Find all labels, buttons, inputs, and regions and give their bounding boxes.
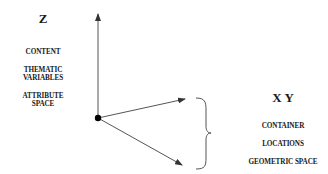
curly-brace-icon [196, 98, 211, 169]
origin-point [95, 115, 101, 121]
z-label-thematic: THEMATIC [24, 66, 63, 74]
z-label-variables: VARIABLES [23, 74, 63, 82]
z-label-space: SPACE [32, 100, 55, 108]
y-axis-arrow [98, 118, 182, 165]
xy-axes-title: X Y [272, 90, 294, 106]
z-axis-title: Z [39, 11, 48, 27]
z-label-content: CONTENT [26, 48, 61, 56]
z-label-attribute: ATTRIBUTE [23, 92, 64, 100]
xy-label-locations: LOCATIONS [262, 140, 304, 148]
x-axis-arrow [98, 99, 185, 118]
xy-label-geometric-space: GEOMETRIC SPACE [249, 158, 318, 166]
xy-label-container: CONTAINER [262, 122, 305, 130]
